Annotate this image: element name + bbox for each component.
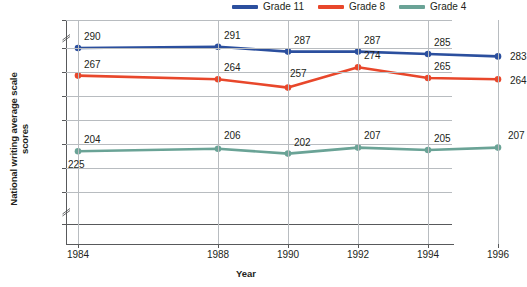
gridline-vertical [498, 20, 499, 244]
y-tick-mark [62, 168, 66, 169]
legend-item-grade-4: Grade 4 [399, 2, 466, 12]
x-tick-label: 1990 [277, 250, 299, 260]
gridline-horizontal [66, 48, 452, 49]
gridline-horizontal [66, 20, 452, 21]
data-point-label: 206 [224, 131, 241, 141]
gridline-horizontal [66, 224, 452, 225]
data-point-label: 291 [224, 31, 241, 41]
legend-swatch-grade-4 [399, 5, 425, 9]
legend-item-grade-8: Grade 8 [318, 2, 385, 12]
data-point-label: 264 [224, 63, 241, 73]
data-point-label: 264 [510, 76, 527, 86]
y-tick-mark [62, 120, 66, 121]
gridline-horizontal [66, 144, 452, 145]
gridline-horizontal [66, 120, 452, 121]
y-tick-mark [62, 192, 66, 193]
data-point-label: 257 [290, 69, 307, 79]
legend-label-grade-4: Grade 4 [430, 2, 466, 12]
x-axis-title: Year [0, 268, 470, 279]
gridline-horizontal [66, 72, 452, 73]
x-tick-label: 1988 [207, 250, 229, 260]
y-tick-mark [62, 20, 66, 21]
y-tick-mark [62, 224, 66, 225]
x-tick-label: 1994 [417, 250, 439, 260]
data-point-label: 207 [364, 131, 381, 141]
data-point-label: 285 [434, 38, 451, 48]
legend-swatch-grade-8 [318, 5, 344, 9]
data-point-label: 267 [84, 60, 101, 70]
gridline-vertical [288, 20, 289, 244]
gridline-horizontal [66, 168, 452, 169]
x-tick-mark [428, 244, 429, 248]
data-point-label: 287 [364, 36, 381, 46]
y-tick-mark [62, 96, 66, 97]
x-tick-mark [78, 244, 79, 248]
x-tick-mark [498, 244, 499, 248]
stray-annotation-label: 225 [68, 160, 85, 170]
gridline-horizontal [66, 192, 452, 193]
legend-swatch-grade-11 [232, 5, 258, 9]
x-tick-label: 1984 [67, 250, 89, 260]
legend-label-grade-11: Grade 11 [263, 2, 304, 12]
data-point-label: 205 [434, 134, 451, 144]
x-tick-label: 1996 [487, 250, 509, 260]
data-point-label: 283 [510, 52, 527, 62]
x-tick-mark [288, 244, 289, 248]
legend-label-grade-8: Grade 8 [349, 2, 385, 12]
gridline-vertical [78, 20, 79, 244]
data-point-label: 274 [364, 51, 381, 61]
series-lines [66, 20, 452, 244]
y-tick-mark [62, 72, 66, 73]
data-point-label: 207 [508, 131, 525, 141]
data-point-label: 265 [434, 62, 451, 72]
gridline-horizontal [66, 96, 452, 97]
x-tick-mark [218, 244, 219, 248]
data-point-label: 287 [294, 36, 311, 46]
x-tick-label: 1992 [347, 250, 369, 260]
chart-legend: Grade 11 Grade 8 Grade 4 [232, 0, 466, 14]
y-tick-mark [62, 48, 66, 49]
data-point-label: 202 [294, 138, 311, 148]
gridline-vertical [218, 20, 219, 244]
y-axis-title: National writing average scale scores [8, 59, 30, 219]
y-tick-mark [62, 144, 66, 145]
x-axis-line [66, 244, 454, 245]
legend-item-grade-11: Grade 11 [232, 2, 304, 12]
gridline-vertical [428, 20, 429, 244]
x-axis-title-text: Year [236, 268, 256, 279]
x-tick-mark [358, 244, 359, 248]
plot-area: 5002902702502302101901700198419881990199… [66, 20, 452, 244]
data-point-label: 290 [84, 32, 101, 42]
data-point-label: 204 [84, 135, 101, 145]
gridline-vertical [358, 20, 359, 244]
